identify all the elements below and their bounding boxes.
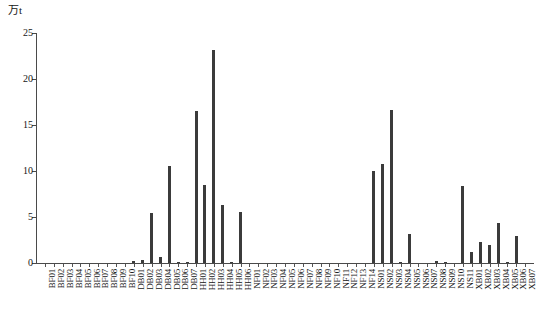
x-tick-mark [54,264,55,267]
bar [461,186,464,263]
bar [444,262,447,263]
x-tick-mark [72,264,73,267]
x-tick-mark [312,264,313,267]
x-tick-mark [498,264,499,267]
x-tick-mark [294,264,295,267]
bar [470,252,473,263]
x-tick-mark [125,264,126,267]
x-tick-mark [214,264,215,267]
x-tick-mark [276,264,277,267]
x-tick-mark [89,264,90,267]
x-tick-mark [374,264,375,267]
x-tick-mark [507,264,508,267]
x-tick-mark [178,264,179,267]
x-tick-mark [454,264,455,267]
x-tick-mark [516,264,517,267]
bar [230,262,233,263]
x-tick-mark [152,264,153,267]
x-tick-mark [161,264,162,267]
bar [186,262,189,263]
bar [203,185,206,263]
bar [479,242,482,263]
x-tick-mark [383,264,384,267]
x-tick-mark [116,264,117,267]
x-tick-mark [347,264,348,267]
y-tick-label: 15 [23,120,33,130]
x-tick-mark [258,264,259,267]
bar [488,245,491,263]
bar [497,223,500,263]
bar [399,262,402,263]
x-tick-mark [196,264,197,267]
y-axis-line [36,33,37,264]
y-tick-label: 25 [23,28,33,38]
bar [141,260,144,263]
x-tick-mark [134,264,135,267]
x-tick-mark [463,264,464,267]
x-tick-mark [267,264,268,267]
x-tick-mark [427,264,428,267]
bar [515,236,518,263]
x-tick-mark [107,264,108,267]
bar [132,261,135,263]
x-tick-mark [490,264,491,267]
y-tick-label: 0 [28,258,33,268]
x-tick-mark [436,264,437,267]
y-tick-label: 10 [23,166,33,176]
bar-chart-figure: 万t 0510152025 BF01BF02BF03BF04BF05BF06BF… [0,0,543,311]
bar [195,111,198,263]
x-tick-mark [329,264,330,267]
bar [408,234,411,263]
bar [239,212,242,263]
bar [435,261,438,263]
x-tick-mark [525,264,526,267]
x-tick-mark [45,264,46,267]
x-tick-mark [410,264,411,267]
x-tick-mark [232,264,233,267]
x-tick-mark [285,264,286,267]
x-tick-label: XB07 [528,269,537,290]
x-tick-mark [223,264,224,267]
x-tick-mark [303,264,304,267]
bar [168,166,171,263]
y-axis-unit-label: 万t [8,4,22,16]
x-tick-mark [356,264,357,267]
x-tick-mark [249,264,250,267]
y-tick-label: 5 [28,212,33,222]
bar [212,50,215,263]
bar [221,205,224,263]
x-tick-mark [365,264,366,267]
y-tick-label: 20 [23,74,33,84]
x-tick-mark [338,264,339,267]
x-tick-mark [481,264,482,267]
bar [150,213,153,263]
x-tick-mark [80,264,81,267]
x-tick-mark [445,264,446,267]
x-tick-mark [63,264,64,267]
x-tick-mark [321,264,322,267]
bar [372,171,375,263]
x-tick-mark [187,264,188,267]
bar [506,262,509,263]
bar [159,257,162,263]
bar [177,262,180,263]
x-tick-mark [143,264,144,267]
x-tick-mark [472,264,473,267]
x-tick-mark [401,264,402,267]
plot-area: 0510152025 BF01BF02BF03BF04BF05BF06BF07B… [36,33,534,264]
x-tick-mark [98,264,99,267]
x-tick-mark [205,264,206,267]
x-tick-mark [241,264,242,267]
x-tick-mark [392,264,393,267]
bar [390,110,393,263]
x-tick-mark [169,264,170,267]
bar [381,164,384,263]
x-tick-mark [418,264,419,267]
